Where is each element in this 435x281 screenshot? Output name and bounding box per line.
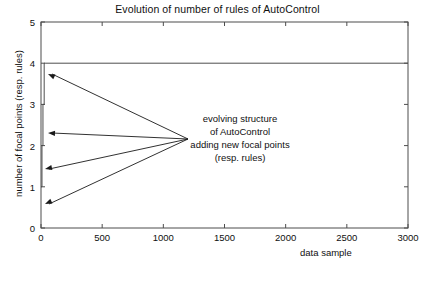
annotation-text-line: (resp. rules) bbox=[215, 152, 266, 163]
y-tick-label: 5 bbox=[17, 17, 35, 28]
x-tick-label: 2000 bbox=[275, 232, 296, 243]
x-tick-label: 2500 bbox=[336, 232, 357, 243]
annotation-text-line: adding new focal points bbox=[190, 139, 289, 150]
y-tick-label: 0 bbox=[17, 223, 35, 234]
axes-frame bbox=[41, 22, 408, 228]
annotation-text-line: evolving structure bbox=[203, 113, 277, 124]
y-tick-label: 4 bbox=[17, 58, 35, 69]
x-tick-label: 1000 bbox=[153, 232, 174, 243]
x-tick-label: 500 bbox=[94, 232, 110, 243]
y-tick-label: 3 bbox=[17, 99, 35, 110]
y-tick-label: 2 bbox=[17, 140, 35, 151]
x-tick-label: 3000 bbox=[397, 232, 418, 243]
annotation-text-line: of AutoControl bbox=[210, 126, 270, 137]
y-tick-label: 1 bbox=[17, 181, 35, 192]
chart-figure: Evolution of number of rules of AutoCont… bbox=[0, 0, 435, 281]
x-tick-label: 1500 bbox=[214, 232, 235, 243]
x-tick-label: 0 bbox=[38, 232, 43, 243]
